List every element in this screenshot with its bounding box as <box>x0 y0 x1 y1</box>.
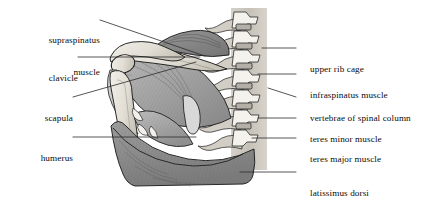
label-humerus: humerus <box>8 132 73 185</box>
shoulder-illustration <box>95 0 295 201</box>
label-teres-major-muscle-line1: teres major muscle <box>310 154 381 165</box>
label-humerus-line1: humerus <box>8 153 73 164</box>
label-clavicle-line1: clavicle <box>8 73 78 84</box>
label-latissimus-dorsi-line1: latissimus dorsi <box>310 188 384 199</box>
anatomy-figure: supraspinatus muscle clavicle scapula hu… <box>0 0 438 201</box>
label-scapula-line1: scapula <box>8 113 73 124</box>
label-supraspinatus-line1: supraspinatus <box>8 35 100 46</box>
label-latissimus-dorsi-muscle: latissimus dorsi muscle (lower part) <box>310 167 384 201</box>
